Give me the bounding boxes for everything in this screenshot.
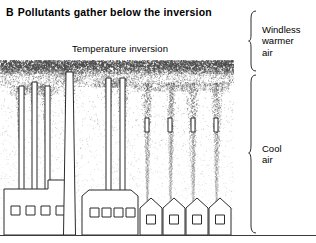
inversion-label: Temperature inversion [72, 43, 168, 54]
scene-contents [0, 60, 234, 235]
building-part [216, 215, 225, 224]
ground-baseline [0, 235, 316, 236]
building-part [170, 215, 179, 224]
curly-brace-icon [248, 74, 258, 234]
building-part [191, 118, 195, 132]
curly-brace-icon [248, 10, 258, 72]
building-part [90, 208, 99, 217]
zone-label-cool: Cool air [258, 143, 282, 166]
panel-letter: B [6, 6, 14, 18]
building-part [102, 208, 111, 217]
building-part [26, 206, 35, 215]
scene-svg [0, 58, 234, 236]
zone-label-warm: Windless warmer air [258, 24, 301, 59]
building-part [11, 206, 20, 215]
zone-line: warmer [262, 35, 301, 47]
building-part [114, 208, 123, 217]
zone-line: Cool [262, 143, 282, 155]
zone-windless-warmer-air: Windless warmer air [248, 10, 301, 72]
zone-line: air [262, 47, 301, 59]
building-part [145, 118, 149, 132]
building-part [214, 118, 218, 132]
page-title: BPollutants gather below the inversion [6, 6, 212, 18]
zone-line: Windless [262, 24, 301, 36]
building-part [193, 215, 202, 224]
building-part [41, 206, 50, 215]
building-part [168, 118, 172, 132]
buildings-group [4, 72, 231, 235]
panel-title-text: Pollutants gather below the inversion [18, 6, 212, 18]
building-part [147, 215, 156, 224]
zone-line: air [262, 154, 282, 166]
building-part [126, 208, 135, 217]
scene-illustration [0, 58, 234, 236]
zone-cool-air: Cool air [248, 74, 282, 234]
building-part [64, 72, 76, 235]
figure-panel-b: BPollutants gather below the inversion T… [0, 0, 316, 243]
